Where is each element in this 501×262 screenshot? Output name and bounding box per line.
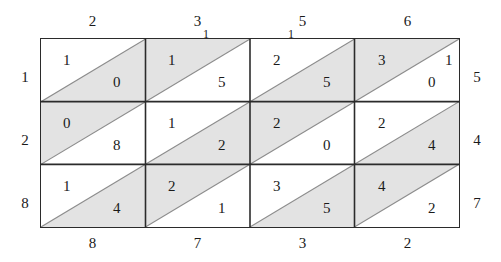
cell-r1c4-upper: 3 [378, 53, 386, 68]
cell-r2c4-lower: 4 [428, 138, 436, 153]
cell-r1c3-upper: 2 [273, 53, 281, 68]
cell-r2c2-lower: 2 [218, 138, 226, 153]
right-label-2: 4 [468, 133, 486, 148]
cell-r1c3-lower: 5 [323, 75, 331, 90]
cell-r2c4-upper: 2 [378, 116, 386, 131]
cell-r3c4-upper: 4 [378, 179, 386, 194]
left-label-3: 8 [16, 196, 34, 211]
bottom-label-4: 2 [355, 236, 460, 251]
right-label-1: 5 [468, 70, 486, 85]
left-label-2: 2 [16, 133, 34, 148]
grid-table: 1 0 1 5 2 5 3 0 1 0 8 1 2 2 0 2 4 1 4 2 … [40, 38, 460, 228]
cell-r2c3-lower: 0 [323, 138, 331, 153]
cell-r3c2-lower: 1 [218, 201, 226, 216]
grid-graphics [41, 39, 459, 227]
cell-r2c3-upper: 2 [273, 116, 281, 131]
cell-r1c2-lower: 5 [218, 75, 226, 90]
bottom-label-2: 7 [145, 236, 250, 251]
top-label-3: 5 [250, 14, 355, 29]
cell-r1c2-upper: 1 [168, 53, 176, 68]
cell-r1c1-upper: 1 [63, 53, 71, 68]
bottom-label-1: 8 [40, 236, 145, 251]
bottom-label-3: 3 [250, 236, 355, 251]
cell-r1c4-lower: 0 [428, 75, 436, 90]
cell-r2c1-upper: 0 [63, 116, 71, 131]
left-label-1: 1 [16, 70, 34, 85]
cell-r3c3-upper: 3 [273, 179, 281, 194]
top-label-2: 3 [145, 14, 250, 29]
cell-r3c2-upper: 2 [168, 179, 176, 194]
figure-canvas: 2 3 5 6 1 1 8 7 3 2 1 2 8 5 4 7 [0, 0, 501, 262]
cell-r1c4-corner: 1 [445, 53, 453, 68]
cell-r1c1-lower: 0 [113, 75, 121, 90]
cell-r2c1-lower: 8 [113, 138, 121, 153]
cell-r3c4-lower: 2 [428, 201, 436, 216]
cell-r3c1-lower: 4 [113, 201, 121, 216]
cell-r3c1-upper: 1 [63, 179, 71, 194]
cell-r3c3-lower: 5 [323, 201, 331, 216]
cell-r2c2-upper: 1 [168, 116, 176, 131]
top-label-4: 6 [355, 14, 460, 29]
right-label-3: 7 [468, 196, 486, 211]
top-label-1: 2 [40, 14, 145, 29]
